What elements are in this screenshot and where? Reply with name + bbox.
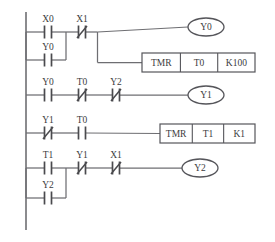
rung-4: T1Y2Y1X1Y2	[26, 150, 218, 205]
rung-3: Y1T0TMRT1K1	[26, 115, 255, 144]
contact-y1-nc-2-label: Y1	[76, 150, 88, 160]
instruction-tmr-t0-cell-2: K100	[226, 58, 247, 68]
contact-t0-no-label: T0	[77, 115, 88, 125]
contact-y2-nc-label: Y2	[110, 77, 122, 87]
contact-y2-branch-label: Y2	[42, 180, 54, 190]
contact-y2-nc[interactable]: Y2	[110, 77, 122, 102]
instruction-tmr-t0-cell-1: T0	[194, 58, 205, 68]
rung-2: Y0T0Y2Y1	[26, 77, 224, 105]
contact-y0-branch[interactable]: Y0	[42, 42, 54, 67]
contact-y1-nc-label: Y1	[42, 115, 54, 125]
contact-y1-nc-2[interactable]: Y1	[76, 150, 88, 175]
contact-y1-nc[interactable]: Y1	[42, 115, 54, 140]
contact-y2-branch[interactable]: Y2	[42, 180, 54, 205]
contact-t0-nc-label: T0	[77, 77, 88, 87]
contact-t1-label: T1	[43, 150, 54, 160]
instruction-tmr-t1-cell-1: T1	[203, 129, 214, 139]
rung-3-wire-to-box	[86, 133, 161, 134]
contact-x0-label: X0	[42, 14, 54, 24]
contact-x1-label: X1	[76, 14, 88, 24]
ladder-canvas: X0Y0X1Y0TMRT0K100Y0T0Y2Y1Y1T0TMRT1K1T1Y2…	[0, 0, 275, 242]
contact-y0[interactable]: Y0	[42, 77, 54, 102]
contact-y0-branch-label: Y0	[42, 42, 54, 52]
contact-t0-no[interactable]: T0	[77, 115, 88, 140]
contact-t0-nc[interactable]: T0	[77, 77, 88, 102]
contact-t1[interactable]: T1	[43, 150, 54, 175]
instruction-tmr-t1-cell-0: TMR	[166, 129, 187, 139]
instruction-tmr-t1[interactable]: TMRT1K1	[160, 124, 255, 143]
coil-y2[interactable]: Y2	[182, 159, 218, 177]
coil-y0[interactable]: Y0	[188, 18, 224, 36]
instruction-tmr-t1-cell-2: K1	[234, 129, 246, 139]
ladder-diagram: X0Y0X1Y0TMRT0K100Y0T0Y2Y1Y1T0TMRT1K1T1Y2…	[0, 0, 275, 242]
contact-x1-nc-2[interactable]: X1	[110, 150, 122, 175]
coil-y0-label: Y0	[200, 22, 212, 32]
instruction-tmr-t0-cell-0: TMR	[151, 58, 172, 68]
rung-1: X0Y0X1Y0TMRT0K100	[26, 14, 255, 73]
coil-y1[interactable]: Y1	[188, 86, 224, 104]
contact-x1[interactable]: X1	[76, 14, 88, 39]
contact-y0-label: Y0	[42, 77, 54, 87]
coil-y2-label: Y2	[194, 163, 206, 173]
rung-1-wire-to-coil	[98, 27, 189, 32]
contact-x1-nc-2-label: X1	[110, 150, 122, 160]
coil-y1-label: Y1	[200, 90, 212, 100]
contact-x0[interactable]: X0	[42, 14, 54, 39]
instruction-tmr-t0[interactable]: TMRT0K100	[142, 53, 255, 72]
